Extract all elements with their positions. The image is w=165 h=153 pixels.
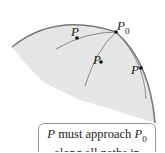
label-p0: P0: [117, 19, 129, 36]
point-p-right: [139, 66, 143, 70]
label-p-middle: P: [93, 53, 101, 66]
label-p-right: P: [131, 63, 139, 76]
caption-box: P must approach P0 along all paths in: [38, 123, 156, 152]
caption-line-2: along all paths in: [43, 146, 151, 153]
label-p-left: P: [71, 25, 79, 38]
caption-line-1: P must approach P0: [43, 127, 151, 146]
